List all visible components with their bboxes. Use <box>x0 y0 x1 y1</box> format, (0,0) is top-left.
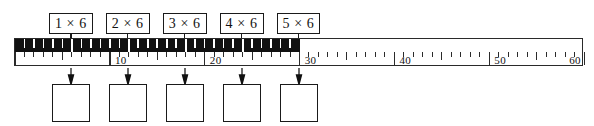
answer-box-2[interactable] <box>109 84 147 122</box>
scale-tick <box>356 52 357 57</box>
scale-tick <box>261 52 262 57</box>
scale-tick <box>280 52 281 57</box>
shaded-unit-tick <box>232 39 234 48</box>
scale-tick <box>271 52 272 57</box>
shaded-unit-tick <box>100 39 102 48</box>
scale-tick <box>147 52 148 57</box>
scale-tick <box>90 52 91 57</box>
shaded-unit-tick <box>109 39 111 48</box>
shaded-unit-tick <box>261 39 263 48</box>
scale-tick <box>441 52 442 60</box>
multiplication-label-5: 5 × 6 <box>277 13 321 34</box>
scale-tick <box>318 52 319 57</box>
answer-box-1[interactable] <box>52 84 90 122</box>
shaded-unit-tick <box>270 39 272 48</box>
group-divider-tick <box>128 39 130 52</box>
shaded-unit-tick <box>280 39 282 48</box>
scale-tick <box>327 52 328 57</box>
shaded-unit-tick <box>166 39 168 48</box>
scale-tick <box>451 52 452 57</box>
scale-tick <box>384 52 385 57</box>
scale-tick <box>479 52 480 57</box>
multiplication-label-4: 4 × 6 <box>220 13 264 34</box>
shaded-unit-tick <box>33 39 35 48</box>
scale-tick <box>337 52 338 57</box>
scale-tick <box>24 52 25 57</box>
scale-tick <box>517 52 518 57</box>
scale-tick <box>394 52 395 65</box>
shaded-unit-tick <box>213 39 215 48</box>
scale-tick <box>489 52 490 65</box>
scale-tick <box>346 52 347 60</box>
scale-number: 40 <box>400 54 412 66</box>
scale-tick <box>166 52 167 57</box>
scale-tick <box>71 52 72 57</box>
scale-number: 30 <box>305 54 317 66</box>
scale-tick <box>128 52 129 57</box>
shaded-unit-tick <box>81 39 83 48</box>
group-divider-tick <box>71 39 73 52</box>
scale-tick <box>62 52 63 60</box>
scale-tick <box>100 52 101 57</box>
multiplication-label-3: 3 × 6 <box>163 13 207 34</box>
scale-tick <box>432 52 433 57</box>
scale-tick <box>536 52 537 60</box>
answer-box-3[interactable] <box>166 84 204 122</box>
scale-tick <box>470 52 471 57</box>
shaded-unit-tick <box>147 39 149 48</box>
scale-tick <box>185 52 186 57</box>
scale-tick <box>109 52 110 65</box>
shaded-unit-tick <box>223 39 225 48</box>
number-line-ruler: 102030405060 <box>14 38 583 66</box>
shaded-unit-tick <box>52 39 54 48</box>
shaded-unit-tick <box>90 39 92 48</box>
worksheet-canvas: 1 × 62 × 63 × 64 × 65 × 6 102030405060 <box>0 0 594 126</box>
shaded-unit-tick <box>24 39 26 48</box>
scale-tick <box>204 52 205 65</box>
scale-tick <box>299 52 300 65</box>
scale-tick <box>565 52 566 57</box>
shaded-unit-tick <box>119 39 121 48</box>
scale-tick <box>375 52 376 57</box>
scale-tick <box>195 52 196 57</box>
scale-tick <box>81 52 82 57</box>
shaded-unit-tick <box>175 39 177 48</box>
multiplication-label-1: 1 × 6 <box>49 13 93 34</box>
scale-tick <box>43 52 44 57</box>
scale-tick <box>290 52 291 57</box>
scale-tick <box>555 52 556 57</box>
shaded-unit-tick <box>289 39 291 48</box>
shaded-unit-tick <box>251 39 253 48</box>
shaded-unit-tick <box>62 39 64 48</box>
scale-tick <box>527 52 528 57</box>
scale-tick <box>233 52 234 57</box>
scale-tick <box>584 52 585 65</box>
group-divider-tick <box>185 39 187 52</box>
shaded-unit-tick <box>43 39 45 48</box>
scale-tick <box>508 52 509 57</box>
scale-tick <box>52 52 53 57</box>
scale-tick <box>157 52 158 60</box>
scale-number: 20 <box>210 54 222 66</box>
scale-tick <box>15 52 16 65</box>
shaded-unit-tick <box>204 39 206 48</box>
scale-number: 50 <box>494 54 506 66</box>
scale-tick <box>546 52 547 57</box>
shaded-unit-tick <box>156 39 158 48</box>
scale-tick <box>242 52 243 57</box>
answer-box-4[interactable] <box>223 84 261 122</box>
scale-tick <box>460 52 461 57</box>
scale-number: 10 <box>115 54 127 66</box>
scale-tick <box>223 52 224 57</box>
shaded-unit-tick <box>137 39 139 48</box>
shaded-unit-tick <box>194 39 196 48</box>
scale-number: 60 <box>569 54 581 66</box>
group-divider-tick <box>242 39 244 52</box>
scale-tick <box>138 52 139 57</box>
answer-box-5[interactable] <box>280 84 318 122</box>
scale-tick <box>422 52 423 57</box>
scale-tick <box>365 52 366 57</box>
scale-tick <box>176 52 177 57</box>
multiplication-label-2: 2 × 6 <box>106 13 150 34</box>
scale-tick <box>413 52 414 57</box>
